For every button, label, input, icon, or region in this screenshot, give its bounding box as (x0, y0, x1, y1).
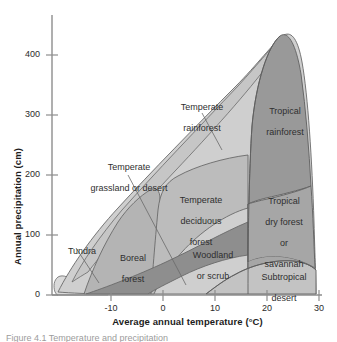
x-tick-label-neg10: -10 (96, 303, 126, 313)
y-axis-title-text: Annual precipitation (cm) (12, 148, 23, 265)
biome-climate-diagram: Annual precipitation (cm) Average annual… (0, 0, 337, 342)
y-tick-label-300: 300 (14, 109, 40, 119)
x-tick-label-20: 20 (252, 303, 282, 313)
y-tick-label-100: 100 (14, 229, 40, 239)
x-tick-label-10: 10 (200, 303, 230, 313)
y-tick-label-400: 400 (14, 49, 40, 59)
x-tick-label-0: 0 (148, 303, 178, 313)
y-tick-label-0: 0 (14, 289, 40, 299)
y-axis-title: Annual precipitation (cm) (0, 50, 14, 270)
whittaker-biome-plot (0, 0, 337, 342)
figure-caption: Figure 4.1 Temperature and precipitation (6, 333, 336, 342)
x-axis-title-text: Average annual temperature (°C) (74, 316, 263, 327)
x-axis-title: Average annual temperature (°C) (0, 316, 337, 327)
y-tick-label-200: 200 (14, 169, 40, 179)
x-tick-label-30: 30 (304, 303, 334, 313)
